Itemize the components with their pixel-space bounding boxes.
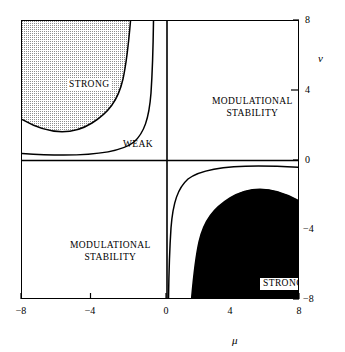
ms-lower-line2: STABILITY	[84, 252, 136, 262]
xtick-label-minus4: −4	[78, 305, 102, 316]
ms-lower-line1: MODULATIONAL	[70, 240, 151, 250]
xtick-label-8: 8	[287, 305, 311, 316]
ytick-label-8: 8	[305, 14, 310, 25]
xtick-label-zero: 0	[154, 305, 178, 316]
phase-diagram-figure: STRONG WEAK MODULATIONAL STABILITY MODUL…	[0, 0, 345, 352]
region-label-strong-lower-right: STRONG	[259, 277, 299, 291]
region-label-weak-lower-right: WEAK	[237, 221, 267, 233]
ytick-label-minus4: −4	[303, 223, 314, 234]
region-label-modulational-stability-lower-left: MODULATIONAL STABILITY	[70, 240, 151, 263]
ms-upper-line1: MODULATIONAL	[212, 96, 293, 106]
region-label-modulational-stability-upper-right: MODULATIONAL STABILITY	[212, 96, 293, 119]
xtick-label-4: 4	[218, 305, 242, 316]
y-axis-title: ν	[318, 52, 323, 64]
ytick-label-zero: 0	[305, 154, 310, 165]
ytick-label-4: 4	[305, 84, 310, 95]
plot-area: STRONG WEAK MODULATIONAL STABILITY MODUL…	[21, 20, 299, 299]
region-label-strong-upper-left: STRONG	[67, 79, 111, 91]
x-axis-title: μ	[232, 334, 238, 346]
xtick-label-minus8: −8	[9, 305, 33, 316]
ms-upper-line2: STABILITY	[226, 108, 278, 118]
region-strong-upper-left-fill	[22, 21, 131, 132]
ytick-label-minus8: −8	[303, 293, 314, 304]
plot-canvas	[22, 21, 299, 299]
region-label-weak-upper-left: WEAK	[123, 139, 153, 151]
